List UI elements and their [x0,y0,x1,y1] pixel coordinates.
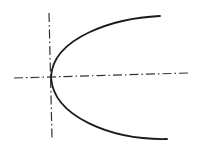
diagram-svg [0,0,199,156]
parabola-curve [51,16,167,139]
parabola-diagram [0,0,199,156]
horizontal-axis [14,73,188,78]
